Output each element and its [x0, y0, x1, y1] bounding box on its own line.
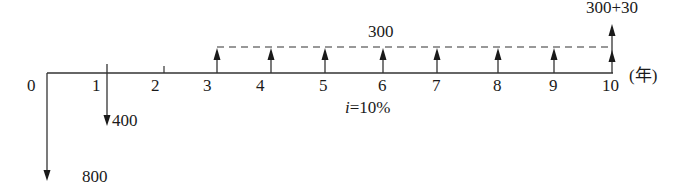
- year-label-3: 3: [203, 76, 212, 95]
- inflow-arrow-year-9: [551, 48, 558, 73]
- interest-value: =10%: [350, 98, 391, 117]
- cash-flow-svg: 0 1 2 3 4 5 6 7 8 9 10 (年) 300 300+30 40…: [0, 0, 679, 190]
- outflow-800-label: 800: [82, 167, 108, 186]
- inflow-arrow-year-6: [380, 48, 387, 73]
- inflow-arrow-year-5: [322, 48, 329, 73]
- year-label-4: 4: [256, 76, 265, 95]
- year-label-5: 5: [319, 76, 328, 95]
- inflow-arrow-year-7: [434, 48, 441, 73]
- unit-label: (年): [629, 66, 657, 85]
- final-amount-label: 300+30: [586, 0, 638, 17]
- outflow-400-label: 400: [112, 111, 138, 130]
- interest-rate-label: i=10%: [345, 98, 390, 117]
- inflow-arrow-year-4: [268, 48, 275, 73]
- year-label-7: 7: [432, 76, 441, 95]
- year-label-10: 10: [602, 76, 619, 95]
- inflow-arrow-year-10: [609, 24, 616, 73]
- outflow-arrow-year-0: [44, 73, 51, 181]
- year-label-8: 8: [493, 76, 502, 95]
- year-label-0: 0: [27, 76, 36, 95]
- inflow-arrow-year-8: [495, 48, 502, 73]
- inflow-arrow-year-3: [214, 48, 221, 73]
- cash-flow-diagram: 0 1 2 3 4 5 6 7 8 9 10 (年) 300 300+30 40…: [0, 0, 679, 190]
- year-label-1: 1: [92, 76, 101, 95]
- year-label-9: 9: [549, 76, 558, 95]
- year-label-2: 2: [151, 76, 160, 95]
- annuity-amount-label: 300: [368, 22, 394, 41]
- year-label-6: 6: [378, 76, 387, 95]
